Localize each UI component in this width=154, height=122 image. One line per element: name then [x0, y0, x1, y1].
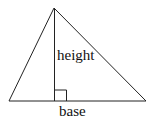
base-label: base	[59, 103, 86, 119]
height-label: height	[57, 47, 95, 63]
triangle-diagram: height base	[0, 0, 154, 122]
right-angle-marker	[55, 90, 67, 101]
